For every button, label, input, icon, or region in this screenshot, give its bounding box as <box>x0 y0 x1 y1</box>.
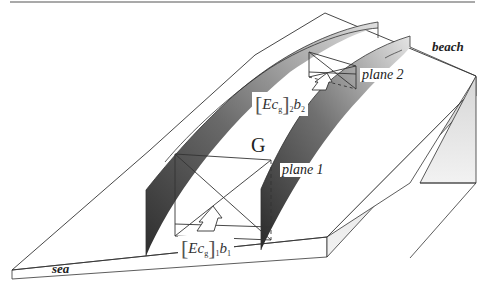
flux-2-symbol: Ec <box>262 96 278 112</box>
arrow-1 <box>197 206 222 231</box>
label-plane-1: plane 1 <box>280 163 326 177</box>
flux-1-b: b <box>219 240 227 256</box>
flux-2-b-index: 2 <box>301 105 305 114</box>
flux-1-symbol: Ec <box>188 240 204 256</box>
flux-1-b-index: 1 <box>227 249 231 258</box>
plane-1-box <box>175 154 271 240</box>
flux-label-2: [Ecg]2b2 <box>252 92 308 116</box>
label-sea: sea <box>52 262 69 275</box>
flux-2-b: b <box>293 96 301 112</box>
label-region-g: G <box>243 134 273 156</box>
flux-label-1: [Ecg]1b1 <box>178 236 234 260</box>
label-plane-2: plane 2 <box>360 68 406 82</box>
label-beach: beach <box>432 40 464 53</box>
